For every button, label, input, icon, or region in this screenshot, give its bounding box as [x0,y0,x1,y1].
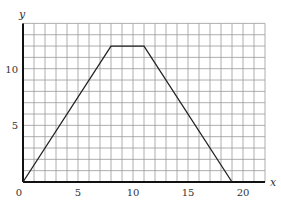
x-tick-label: 15 [182,187,195,198]
x-tick-label: 20 [237,187,250,198]
x-tick-label: 5 [75,187,81,198]
y-tick-label: 5 [12,120,18,131]
y-axis-label: y [18,8,26,21]
x-tick-label: 0 [16,187,22,198]
x-tick-label: 10 [127,187,140,198]
tick-labels: 05101520510xy [5,8,277,198]
x-axis-label: x [270,176,277,189]
y-tick-label: 10 [5,64,18,75]
line-chart: 05101520510xy [0,0,281,208]
